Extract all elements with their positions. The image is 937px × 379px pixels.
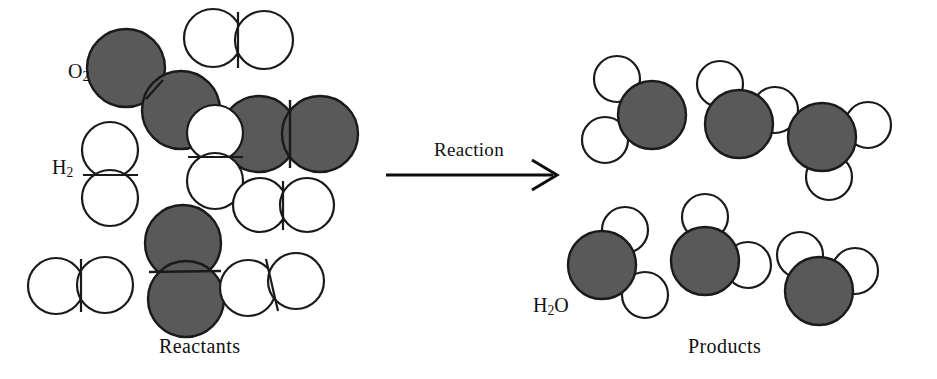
reaction-arrow-label: Reaction xyxy=(434,140,504,159)
reactant-h2-molecule xyxy=(82,122,138,226)
reaction-figure: O2 H2 H2O Reaction Reactants Products xyxy=(0,0,937,379)
reactant-o2-molecule xyxy=(145,205,224,337)
reaction-arrow-icon xyxy=(386,160,557,190)
hydrogen-label-subscript: 2 xyxy=(66,165,73,180)
reactant-h2-molecule xyxy=(184,9,293,69)
reactant-h2-molecule xyxy=(233,178,334,232)
reactants-caption: Reactants xyxy=(159,336,240,356)
water-label-oxygen: O xyxy=(554,294,568,316)
reaction-scene xyxy=(0,0,937,379)
hydrogen-molecule-label: H2 xyxy=(52,157,73,180)
hydrogen-label-element: H xyxy=(52,156,66,178)
oxygen-label-element: O xyxy=(68,60,82,82)
product-h2o-molecule xyxy=(788,102,891,200)
reactant-h2-molecule xyxy=(220,253,324,316)
water-label-element: H xyxy=(533,294,547,316)
water-molecule-label: H2O xyxy=(533,295,569,318)
product-h2o-molecule xyxy=(568,207,668,318)
oxygen-molecule-label: O2 xyxy=(68,61,89,84)
product-h2o-molecule xyxy=(671,194,771,295)
products-caption: Products xyxy=(688,336,761,356)
oxygen-label-subscript: 2 xyxy=(82,69,89,84)
product-h2o-molecule xyxy=(777,232,878,325)
product-h2o-molecule xyxy=(697,61,798,158)
reactant-h2-molecule xyxy=(28,257,133,314)
product-h2o-molecule xyxy=(582,56,686,163)
